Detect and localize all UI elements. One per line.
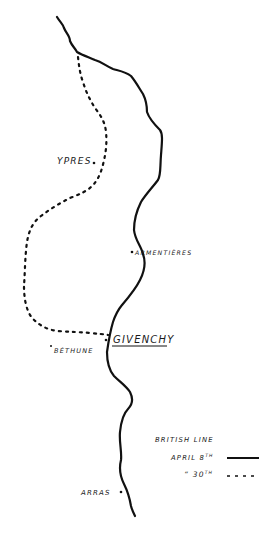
town-label-arras: ARRAS: [80, 489, 111, 497]
legend-label-april-30: “ 30TH: [184, 470, 213, 479]
legend-title: BRITISH LINE: [155, 436, 214, 444]
legend: BRITISH LINE APRIL 8TH “ 30TH: [155, 436, 259, 479]
town-dot-ypres: [93, 162, 96, 165]
town-givenchy: GIVENCHY: [105, 334, 175, 346]
town-arras: ARRAS: [80, 489, 122, 497]
town-ypres: YPRES: [57, 156, 95, 166]
legend-entry-april-30: “ 30TH: [184, 470, 259, 479]
town-label-armentieres: ARMENTIÈRES: [134, 249, 192, 256]
legend-entry-april-8: APRIL 8TH: [170, 453, 259, 462]
town-armentieres: ARMENTIÈRES: [131, 249, 193, 256]
town-dot-armentieres: [131, 251, 134, 254]
british-line-april-30: [24, 57, 108, 335]
town-dot-givenchy: [105, 339, 108, 342]
town-bethune: BÉTHUNE: [50, 345, 94, 355]
british-line-april-8: [57, 17, 162, 516]
town-label-givenchy: GIVENCHY: [113, 334, 175, 345]
town-dot-arras: [120, 491, 123, 494]
town-dot-bethune: [50, 345, 52, 347]
town-label-ypres: YPRES: [57, 156, 92, 166]
legend-suffix-april-8: TH: [205, 453, 214, 458]
map-canvas: YPRES ARMENTIÈRES GIVENCHY BÉTHUNE ARRAS…: [0, 0, 277, 538]
legend-label-april-8: APRIL 8TH: [170, 453, 214, 462]
legend-suffix-april-30: TH: [205, 470, 214, 475]
town-label-bethune: BÉTHUNE: [54, 346, 94, 355]
